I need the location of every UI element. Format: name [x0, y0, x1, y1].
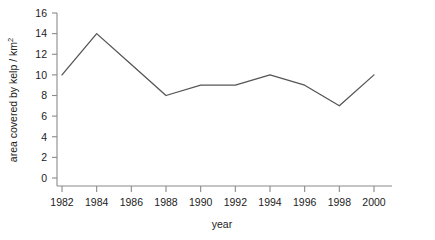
x-tick-label: 2000	[362, 196, 386, 208]
y-tick-label: 16	[35, 7, 47, 19]
y-tick-label: 6	[41, 110, 47, 122]
y-axis-ticks	[52, 13, 57, 178]
y-axis-tick-labels: 0246810121416	[35, 7, 47, 184]
y-tick-label: 0	[41, 172, 47, 184]
y-tick-label: 4	[41, 131, 47, 143]
x-tick-label: 1998	[328, 196, 352, 208]
kelp-coverage-line-chart: 0246810121416 19821984198619881990199219…	[0, 0, 435, 240]
x-axis-tick-labels: 1982198419861988199019921994199619982000	[50, 196, 386, 208]
x-tick-label: 1986	[120, 196, 144, 208]
x-tick-label: 1984	[85, 196, 109, 208]
chart-svg: 0246810121416 19821984198619881990199219…	[0, 0, 435, 240]
x-tick-label: 1996	[293, 196, 317, 208]
y-tick-label: 10	[35, 69, 47, 81]
x-axis-ticks	[62, 186, 374, 192]
x-tick-label: 1994	[258, 196, 282, 208]
series-lines-group	[62, 34, 374, 106]
x-tick-label: 1990	[189, 196, 213, 208]
y-axis-title: area covered by kelp / km2	[6, 38, 19, 162]
x-tick-label: 1982	[50, 196, 74, 208]
y-tick-label: 14	[35, 27, 47, 39]
y-tick-label: 2	[41, 151, 47, 163]
y-tick-label: 12	[35, 48, 47, 60]
x-tick-label: 1988	[154, 196, 178, 208]
x-tick-label: 1992	[224, 196, 248, 208]
series-line-1	[62, 34, 374, 106]
x-axis-title: year	[212, 218, 233, 230]
y-tick-label: 8	[41, 89, 47, 101]
